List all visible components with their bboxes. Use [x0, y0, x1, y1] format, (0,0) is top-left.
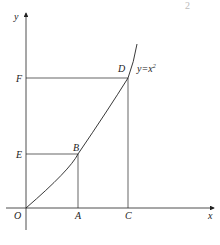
corner-mark: 2 — [185, 0, 190, 11]
point-E-label: E — [15, 149, 22, 160]
point-D-label: D — [117, 63, 126, 74]
curve-label: y=x2 — [136, 63, 156, 74]
point-A-label: A — [74, 210, 82, 221]
y-axis-label: y — [13, 11, 19, 22]
point-C-label: C — [125, 210, 132, 221]
function-diagram: 2 y x O A C B D E F y=x2 — [0, 0, 220, 245]
point-F-label: F — [15, 73, 23, 84]
origin-label: O — [14, 210, 21, 221]
x-axis-label: x — [207, 210, 213, 221]
point-B-label: B — [73, 142, 79, 153]
